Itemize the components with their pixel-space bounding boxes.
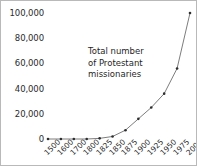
data-point-marker bbox=[124, 129, 127, 132]
data-point-marker bbox=[189, 12, 192, 15]
chart-container: 020,00040,00060,00080,000100,000 Total n… bbox=[0, 0, 197, 166]
y-tick-label: 100,000 bbox=[1, 9, 44, 18]
data-point-marker bbox=[73, 138, 76, 141]
chart-annotation: Total number of Protestant missionaries bbox=[88, 46, 144, 81]
y-tick-label: 20,000 bbox=[1, 109, 44, 118]
data-point-marker bbox=[111, 135, 114, 138]
data-point-marker bbox=[60, 138, 63, 141]
annotation-line-2: of Protestant bbox=[88, 58, 144, 70]
annotation-line-1: Total number bbox=[88, 46, 144, 58]
data-point-marker bbox=[137, 118, 140, 121]
y-tick-label: 80,000 bbox=[1, 34, 44, 43]
data-point-marker bbox=[176, 67, 179, 70]
data-point-marker bbox=[98, 137, 101, 140]
y-tick-label: 60,000 bbox=[1, 59, 44, 68]
annotation-line-3: missionaries bbox=[88, 69, 144, 81]
data-point-marker bbox=[85, 138, 88, 141]
y-tick-label: 0 bbox=[1, 135, 44, 144]
data-point-marker bbox=[150, 106, 153, 109]
y-axis: 020,00040,00060,00080,000100,000 bbox=[1, 13, 44, 139]
y-tick-label: 40,000 bbox=[1, 84, 44, 93]
data-point-marker bbox=[163, 92, 166, 95]
x-axis: 1500160017001800182518501875190019251950… bbox=[48, 141, 197, 166]
data-point-marker bbox=[47, 138, 50, 141]
